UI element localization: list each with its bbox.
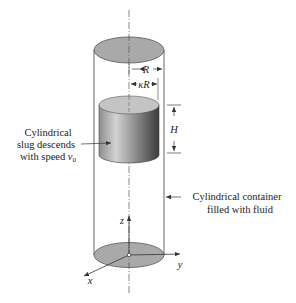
y-axis-label: y <box>177 259 183 270</box>
container-annotation: Cylindrical container filled with fluid <box>166 191 282 215</box>
origin-point <box>127 253 131 257</box>
cylinder-slug-diagram: R κR H Cylindrical slug descends with sp… <box>0 0 296 303</box>
container-label-line2: filled with fluid <box>207 204 274 215</box>
slug-label-line2: slug descends <box>17 139 75 150</box>
container-label-line1: Cylindrical container <box>193 191 282 202</box>
z-axis-label: z <box>119 215 124 226</box>
dimension-R: R <box>129 64 162 75</box>
slug-label-line3: with speed v0 <box>20 151 77 164</box>
x-axis-label: x <box>87 275 93 286</box>
dimension-H: H <box>167 105 181 153</box>
label-H: H <box>169 124 179 135</box>
slug-annotation: Cylindrical slug descends with speed v0 <box>17 127 111 164</box>
label-R: R <box>142 64 150 75</box>
slug <box>99 96 159 163</box>
label-kR: κR <box>138 79 150 90</box>
slug-label-line1: Cylindrical <box>24 127 71 138</box>
